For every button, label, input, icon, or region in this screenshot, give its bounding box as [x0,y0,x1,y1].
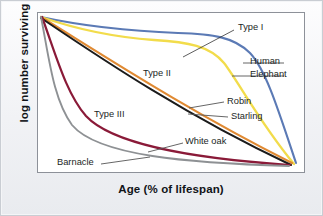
x-axis-label: Age (% of lifespan) [37,183,305,195]
annotation-type-iii: Type III [94,110,125,119]
survivorship-curves-svg [38,13,304,172]
curve-elephant [41,17,294,164]
curve-robin [41,17,292,163]
leader-line-barnacle [101,157,150,164]
annotation-robin: Robin [227,97,251,106]
annotation-type-ii: Type II [143,69,171,78]
plot-area: Type I Human Elephant Type II Robin Star… [37,12,305,173]
survivorship-curves-figure: log number surviving [0,0,323,216]
annotation-white-oak: White oak [185,137,226,146]
annotation-barnacle: Barnacle [57,158,94,167]
annotation-starling: Starling [231,112,263,121]
leader-line-robin [189,102,224,108]
y-axis-label: log number surviving [18,0,30,133]
annotation-type-i: Type I [238,23,263,32]
annotation-human: Human [250,57,280,66]
curve-human [41,17,296,163]
annotation-elephant: Elephant [250,70,287,79]
